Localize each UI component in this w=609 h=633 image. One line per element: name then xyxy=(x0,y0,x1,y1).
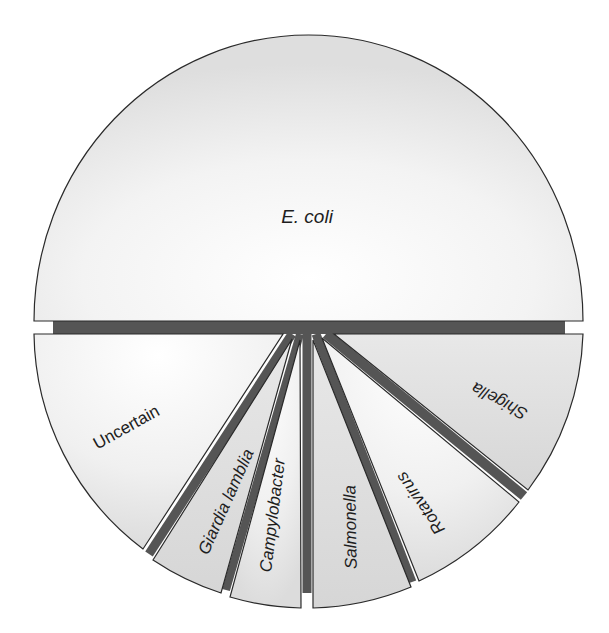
slice-ecoli xyxy=(34,35,583,321)
horizontal-divider-bar xyxy=(53,321,565,334)
label-salmonella: Salmonella xyxy=(340,485,360,569)
pie-chart: E. coli Uncertain Giardia lamblia Campyl… xyxy=(0,0,609,633)
label-ecoli: E. coli xyxy=(281,206,334,227)
